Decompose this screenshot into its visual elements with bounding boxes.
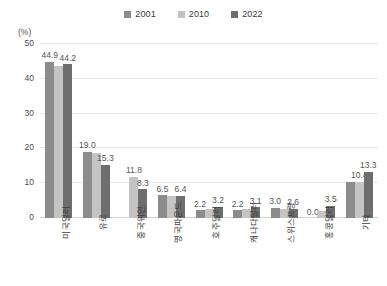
bar-value-label: 44.2 (60, 54, 77, 63)
bar-slot: 8.3 (138, 44, 147, 218)
bar[interactable] (158, 195, 167, 218)
plot-area: 01020304050 44.944.219.015.311.88.36.56.… (40, 44, 378, 218)
bar-slot: 3.0 (271, 44, 280, 218)
bar[interactable] (45, 62, 54, 218)
bar-group: 0.03.5 (303, 44, 341, 218)
y-axis-unit-label: (%) (18, 27, 31, 37)
x-axis-tick-label: 홍콩달러 (322, 205, 334, 238)
bar-slot (346, 44, 355, 218)
bar[interactable] (355, 182, 364, 218)
legend-swatch-icon (178, 11, 185, 18)
x-axis-label-cell: 중국위안 (115, 220, 153, 284)
bar-slot: 6.4 (176, 44, 185, 218)
bar-group: 2.23.1 (228, 44, 266, 218)
bar[interactable] (101, 165, 110, 218)
bar-slot: 3.5 (326, 44, 335, 218)
bar[interactable] (83, 152, 92, 218)
x-axis-label-cell: 영국파운드 (153, 220, 191, 284)
x-axis-label-cell: 스위스프랑 (265, 220, 303, 284)
chart-legend: 200120102022 (0, 9, 387, 19)
x-axis-label-cell: 유로 (78, 220, 116, 284)
bar-value-label: 3.2 (212, 196, 224, 205)
bar-group: 3.02.6 (265, 44, 303, 218)
bar-slot (92, 44, 101, 218)
legend-swatch-icon (124, 11, 131, 18)
bar-slot (317, 44, 326, 218)
x-axis-tick-label: 스위스프랑 (284, 201, 296, 243)
bar-group: 6.56.4 (153, 44, 191, 218)
bar-slot: 2.2 (233, 44, 242, 218)
bar-group: 19.015.3 (78, 44, 116, 218)
bar-slot (54, 44, 63, 218)
bar-groups: 44.944.219.015.311.88.36.56.42.23.22.23.… (40, 44, 378, 218)
x-axis-labels: 미국달러유로중국위안영국파운드호주달러캐나다달러스위스프랑홍콩달러기타 (40, 220, 378, 284)
bar-slot: 6.5 (158, 44, 167, 218)
bar-value-label: 6.4 (175, 185, 187, 194)
bar-value-label: 15.3 (97, 154, 114, 163)
bar-slot: 44.2 (63, 44, 72, 218)
bar[interactable] (54, 66, 63, 218)
bar[interactable] (364, 172, 373, 218)
y-axis-tick-label: 0 (29, 212, 34, 222)
bar-group: 2.23.2 (190, 44, 228, 218)
bar[interactable] (271, 208, 280, 218)
x-axis-tick-label: 중국위안 (134, 205, 146, 238)
x-axis-tick-label: 영국파운드 (171, 201, 183, 243)
bar-group: 44.944.2 (40, 44, 78, 218)
x-axis-tick-label: 호주달러 (209, 205, 221, 238)
y-axis-tick-label: 30 (25, 108, 34, 118)
bar-chart: 200120102022 (%) 01020304050 44.944.219.… (0, 0, 387, 286)
bar[interactable] (196, 210, 205, 218)
bar-slot: 15.3 (101, 44, 110, 218)
x-axis-tick-label: 기타 (359, 214, 371, 231)
x-axis-label-cell: 미국달러 (40, 220, 78, 284)
legend-item-2022[interactable]: 2022 (231, 9, 262, 19)
legend-swatch-icon (231, 11, 238, 18)
bar-slot: 3.2 (214, 44, 223, 218)
bar-slot: 44.9 (45, 44, 54, 218)
bar-slot: 3.1 (251, 44, 260, 218)
bar-group: 11.88.3 (115, 44, 153, 218)
bar-value-label: 8.3 (137, 179, 149, 188)
bar-slot (205, 44, 214, 218)
x-axis-label-cell: 캐나다달러 (228, 220, 266, 284)
bar-slot (280, 44, 289, 218)
bar-slot: 10.4 (355, 44, 364, 218)
x-axis-tick-label: 캐나다달러 (247, 201, 259, 243)
bar-slot: 13.3 (364, 44, 373, 218)
x-axis-tick-label: 유로 (96, 214, 108, 231)
bar-slot: 0.0 (308, 44, 317, 218)
bar-slot: 2.6 (289, 44, 298, 218)
x-axis-tick-label: 미국달러 (59, 205, 71, 238)
legend-item-2010[interactable]: 2010 (178, 9, 209, 19)
legend-item-2001[interactable]: 2001 (124, 9, 155, 19)
y-axis-tick-label: 20 (25, 142, 34, 152)
bar-slot (242, 44, 251, 218)
bar-group: 10.413.3 (341, 44, 379, 218)
bar-slot: 11.8 (129, 44, 138, 218)
legend-item-label: 2010 (189, 9, 209, 19)
bar-slot (120, 44, 129, 218)
bar[interactable] (233, 210, 242, 218)
y-axis-tick-label: 50 (25, 38, 34, 48)
y-axis-tick-label: 40 (25, 73, 34, 83)
x-axis-label-cell: 호주달러 (190, 220, 228, 284)
bar-value-label: 13.3 (360, 161, 377, 170)
bar-slot: 19.0 (83, 44, 92, 218)
bar[interactable] (63, 64, 72, 218)
legend-item-label: 2022 (242, 9, 262, 19)
bar[interactable] (346, 182, 355, 218)
y-axis-tick-label: 10 (25, 177, 34, 187)
bar-slot: 2.2 (196, 44, 205, 218)
x-axis-label-cell: 홍콩달러 (303, 220, 341, 284)
legend-item-label: 2001 (135, 9, 155, 19)
x-axis-label-cell: 기타 (341, 220, 379, 284)
bar-value-label: 3.5 (325, 195, 337, 204)
